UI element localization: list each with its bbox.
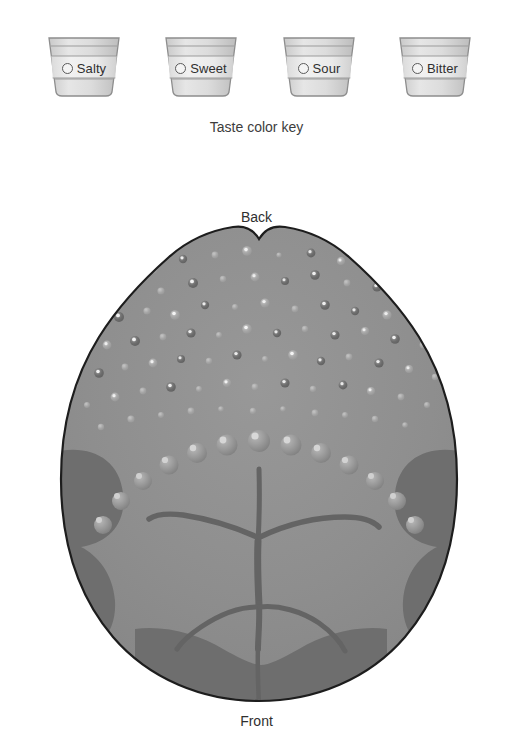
legend-cup-salty[interactable]: Salty: [46, 36, 122, 98]
tongue-body: [57, 225, 461, 703]
legend-cup-sour[interactable]: Sour: [281, 36, 357, 98]
cup-icon: [397, 36, 473, 98]
cup-icon: [163, 36, 239, 98]
tongue-back-label: Back: [0, 209, 513, 225]
legend-cup-sweet[interactable]: Sweet: [163, 36, 239, 98]
tongue-front-label: Front: [0, 713, 513, 729]
cup-icon: [46, 36, 122, 98]
legend-cup-bitter[interactable]: Bitter: [397, 36, 473, 98]
cup-icon: [281, 36, 357, 98]
tongue-diagram: [57, 225, 461, 703]
taste-color-key-legend: Salty Sweet Sour: [0, 36, 513, 116]
taste-color-key-caption: Taste color key: [0, 119, 513, 135]
